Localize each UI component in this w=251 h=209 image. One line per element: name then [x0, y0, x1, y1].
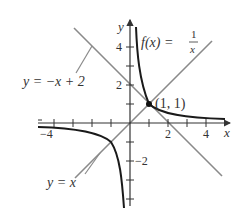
y-tick-4: 4: [116, 40, 122, 54]
point-1-1: [146, 101, 152, 107]
label-f-of-x: f(x) =: [141, 35, 173, 51]
leader-y-equals-x: [85, 153, 100, 174]
leader-neg-x-plus-2: [76, 46, 92, 73]
y-tick-2: 2: [116, 78, 122, 92]
x-tick-4: 4: [203, 127, 209, 141]
x-tick-neg4: −4: [40, 127, 53, 141]
label-f-denominator: x: [189, 43, 195, 55]
function-graph: y x 4 2 −2 −4 2 4 f(x) = 1 x y = −x + 2 …: [0, 0, 251, 209]
x-axis-label: x: [223, 125, 230, 140]
y-tick-neg2: −2: [135, 154, 148, 168]
label-point-1-1: (1, 1): [155, 96, 186, 112]
label-f-numerator: 1: [191, 28, 197, 40]
label-y-equals-x: y = x: [45, 175, 77, 190]
label-neg-x-plus-2: y = −x + 2: [21, 74, 85, 89]
y-axis-label: y: [116, 19, 124, 34]
x-tick-2: 2: [165, 127, 171, 141]
